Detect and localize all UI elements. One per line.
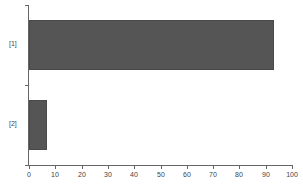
- horizontal-bar-chart: [1][2] 0102030405060708090100: [0, 0, 303, 188]
- x-tick: [29, 165, 30, 169]
- x-tick-label: 50: [157, 171, 165, 178]
- x-tick: [161, 165, 162, 169]
- bar: [29, 100, 47, 150]
- x-tick: [108, 165, 109, 169]
- x-tick-label: 0: [27, 171, 31, 178]
- x-tick-label: 40: [130, 171, 138, 178]
- x-tick: [239, 165, 240, 169]
- y-tick: [25, 5, 29, 6]
- x-tick: [213, 165, 214, 169]
- y-tick-label: [2]: [9, 120, 17, 127]
- x-tick: [55, 165, 56, 169]
- x-tick: [187, 165, 188, 169]
- x-tick: [82, 165, 83, 169]
- x-tick-label: 30: [104, 171, 112, 178]
- x-tick: [134, 165, 135, 169]
- x-tick-label: 100: [286, 171, 298, 178]
- x-tick-label: 80: [235, 171, 243, 178]
- y-tick: [25, 85, 29, 86]
- x-tick-label: 70: [209, 171, 217, 178]
- x-tick: [292, 165, 293, 169]
- x-tick-label: 90: [262, 171, 270, 178]
- x-tick-label: 60: [183, 171, 191, 178]
- x-tick: [266, 165, 267, 169]
- y-tick-label: [1]: [9, 40, 17, 47]
- bar: [29, 20, 274, 70]
- x-tick-label: 10: [51, 171, 59, 178]
- x-tick-label: 20: [78, 171, 86, 178]
